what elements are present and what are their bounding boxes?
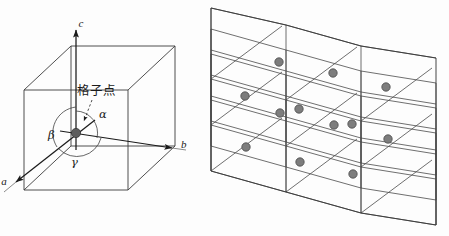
axis-label-a: a [1,175,7,187]
lattice-point [276,109,284,117]
lattice-point-caption: 格子点 [77,83,116,98]
crystal-lattice-figure: c b a α β γ 格子点 [0,0,449,236]
angle-label-gamma: γ [71,155,78,169]
lattice-point [329,69,337,77]
lattice-point [295,105,303,113]
figure-root: c b a α β γ 格子点 [0,0,449,236]
lattice-point [348,120,356,128]
lattice-point [384,135,392,143]
lattice-point [275,58,283,66]
angle-label-alpha: α [99,107,107,121]
figure-background [0,0,449,236]
lattice-point [349,170,357,178]
lattice-point [330,121,338,129]
angle-label-beta: β [47,128,55,142]
axis-label-b: b [181,138,187,150]
lattice-point-marker [71,128,80,137]
axis-label-c: c [79,17,84,29]
lattice-point [241,92,249,100]
lattice-point [242,143,250,151]
lattice-point [382,83,390,91]
lattice-point [296,158,304,166]
